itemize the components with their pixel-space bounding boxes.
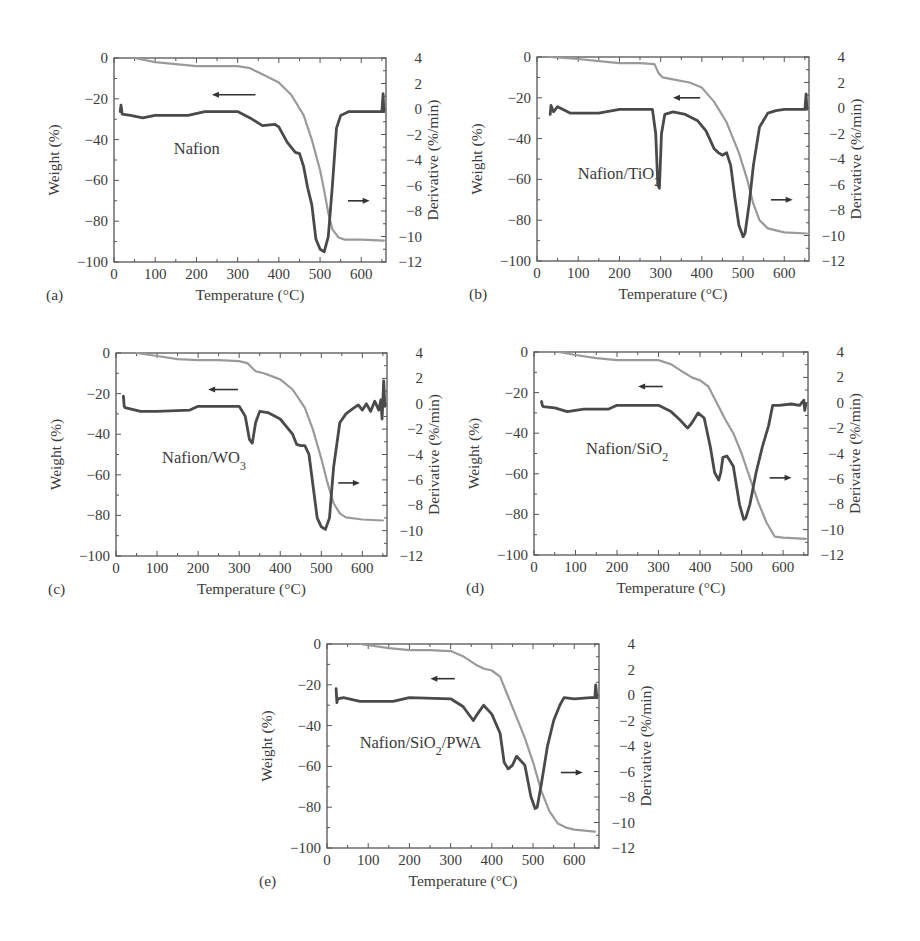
x-tick-label: 600 bbox=[350, 266, 373, 282]
y-tick-label: −100 bbox=[77, 254, 108, 270]
y2-tick-label: 4 bbox=[628, 636, 636, 652]
y2-tick-label: −8 bbox=[829, 202, 845, 218]
y2-tick-label: 2 bbox=[416, 370, 424, 386]
chart-nafion-sio2: 0100200300400500600Temperature (°C)0−20−… bbox=[460, 320, 920, 620]
x-tick-label: 300 bbox=[647, 559, 670, 575]
y2-tick-label: −2 bbox=[406, 127, 422, 143]
x-tick-label: 500 bbox=[522, 852, 545, 868]
x-tick-label: 100 bbox=[564, 559, 587, 575]
x-axis-label: Temperature (°C) bbox=[197, 580, 306, 598]
arrow-left-icon bbox=[208, 387, 238, 393]
x-tick-label: 200 bbox=[606, 559, 629, 575]
arrow-left-icon bbox=[430, 676, 454, 682]
y-tick-label: −100 bbox=[290, 840, 321, 856]
y-tick-label: 0 bbox=[521, 344, 529, 360]
weight-curve bbox=[137, 353, 383, 521]
y-tick-label: 0 bbox=[524, 49, 532, 65]
derivative-curve bbox=[542, 400, 806, 519]
y2-tick-label: −8 bbox=[406, 203, 422, 219]
y2-tick-label: −6 bbox=[828, 471, 844, 487]
y-tick-label: −80 bbox=[87, 507, 110, 523]
panel-c: 0100200300400500600Temperature (°C)0−20−… bbox=[0, 320, 460, 620]
y2-tick-label: −6 bbox=[619, 764, 635, 780]
chart-nafion: 0100200300400500600Temperature (°C)0−20−… bbox=[0, 0, 460, 320]
x-tick-label: 400 bbox=[268, 266, 291, 282]
y-tick-label: −60 bbox=[87, 467, 110, 483]
x-tick-label: 600 bbox=[351, 560, 374, 576]
sample-label: Nafion/SiO2/PWA bbox=[360, 733, 482, 758]
y-tick-label: −80 bbox=[508, 212, 531, 228]
y-axis-right: 420−2−4−6−8−10−12Derivative (%/min) bbox=[381, 50, 442, 270]
y2-tick-label: −10 bbox=[821, 522, 844, 538]
y-tick-label: −100 bbox=[497, 547, 528, 563]
x-tick-label: 100 bbox=[146, 560, 169, 576]
arrow-right-icon bbox=[338, 480, 360, 486]
panel-letter: (c) bbox=[48, 580, 65, 598]
plot-frame bbox=[114, 58, 386, 262]
y-axis-left: 0−20−40−60−80−100Weight (%) bbox=[47, 345, 121, 564]
arrow-left-icon bbox=[212, 92, 256, 98]
y-tick-label: −80 bbox=[505, 506, 528, 522]
x-tick-label: 600 bbox=[563, 852, 586, 868]
y2-tick-label: −4 bbox=[406, 152, 422, 168]
y2-tick-label: −4 bbox=[829, 151, 845, 167]
y2-tick-label: −6 bbox=[407, 472, 423, 488]
x-axis: 0100200300400500600Temperature (°C) bbox=[530, 352, 804, 597]
x-axis-label: Temperature (°C) bbox=[196, 286, 305, 304]
y2-tick-label: 0 bbox=[415, 101, 423, 117]
y2-tick-label: −2 bbox=[619, 713, 635, 729]
chart-nafion-tio2: 0100200300400500600Temperature (°C)0−20−… bbox=[460, 0, 920, 320]
sample-label: Nafion/WO3 bbox=[162, 448, 246, 473]
y-tick-label: −40 bbox=[87, 426, 110, 442]
weight-curve bbox=[549, 57, 807, 234]
x-tick-label: 400 bbox=[689, 559, 712, 575]
y-tick-label: −80 bbox=[85, 213, 108, 229]
x-axis-label: Temperature (°C) bbox=[617, 579, 726, 597]
x-tick-label: 500 bbox=[310, 560, 333, 576]
x-tick-label: 400 bbox=[691, 265, 714, 281]
y2-tick-label: −12 bbox=[612, 840, 635, 856]
y-axis-right: 420−2−4−6−8−10−12Derivative (%/min) bbox=[804, 49, 865, 269]
y-axis-right: 420−2−4−6−8−10−12Derivative (%/min) bbox=[594, 636, 655, 856]
arrow-left-icon bbox=[638, 384, 663, 390]
chart-nafion-wo3: 0100200300400500600Temperature (°C)0−20−… bbox=[0, 320, 460, 620]
x-tick-label: 500 bbox=[730, 559, 753, 575]
x-axis: 0100200300400500600Temperature (°C) bbox=[533, 57, 805, 303]
x-tick-label: 0 bbox=[323, 852, 331, 868]
x-tick-label: 400 bbox=[269, 560, 292, 576]
y-axis-label-right: Derivative (%/min) bbox=[637, 686, 655, 807]
x-tick-label: 0 bbox=[112, 560, 120, 576]
y2-tick-label: −12 bbox=[399, 254, 422, 270]
y2-tick-label: 2 bbox=[838, 75, 846, 91]
y2-tick-label: 2 bbox=[415, 76, 423, 92]
panel-a: 0100200300400500600Temperature (°C)0−20−… bbox=[0, 0, 460, 320]
y2-tick-label: 4 bbox=[837, 344, 845, 360]
y2-tick-label: −10 bbox=[822, 228, 845, 244]
chart-nafion-sio2-pwa: 0100200300400500600Temperature (°C)0−20−… bbox=[230, 620, 690, 941]
weight-curve bbox=[135, 58, 384, 241]
y-tick-label: 0 bbox=[314, 636, 322, 652]
y-axis-label-left: Weight (%) bbox=[47, 419, 65, 491]
y2-tick-label: −2 bbox=[828, 420, 844, 436]
arrow-right-icon bbox=[770, 475, 792, 481]
y-tick-label: −20 bbox=[87, 386, 110, 402]
y-axis-left: 0−20−40−60−80−100Weight (%) bbox=[45, 50, 119, 270]
y-tick-label: −20 bbox=[505, 385, 528, 401]
sample-label: Nafion bbox=[174, 139, 220, 158]
y2-tick-label: 4 bbox=[838, 49, 846, 65]
x-tick-label: 200 bbox=[187, 560, 210, 576]
y-axis-left: 0−20−40−60−80−100Weight (%) bbox=[258, 636, 332, 856]
y2-tick-label: −8 bbox=[828, 496, 844, 512]
y-axis-left: 0−20−40−60−80−100Weight (%) bbox=[465, 344, 539, 563]
y-axis-label-left: Weight (%) bbox=[465, 418, 483, 490]
y-tick-label: −60 bbox=[505, 466, 528, 482]
y2-tick-label: −12 bbox=[822, 253, 845, 269]
y2-tick-label: −4 bbox=[407, 447, 423, 463]
x-tick-label: 300 bbox=[226, 266, 249, 282]
y2-tick-label: −10 bbox=[612, 815, 635, 831]
y-tick-label: −100 bbox=[79, 548, 110, 564]
panel-b: 0100200300400500600Temperature (°C)0−20−… bbox=[460, 0, 920, 320]
y2-tick-label: −10 bbox=[400, 523, 423, 539]
arrow-left-icon bbox=[673, 95, 700, 101]
x-tick-label: 500 bbox=[309, 266, 332, 282]
